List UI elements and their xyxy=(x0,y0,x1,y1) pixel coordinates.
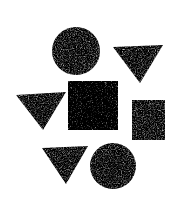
shapes-image-canvas: Circle (top) Triangle (top right) Triang… xyxy=(0,0,192,205)
shape-circle-bottom xyxy=(90,143,136,189)
shape-circle-top xyxy=(52,27,100,75)
shape-square-center xyxy=(68,81,118,130)
shape-square-right xyxy=(132,100,165,140)
shapes-illustration xyxy=(0,0,192,205)
